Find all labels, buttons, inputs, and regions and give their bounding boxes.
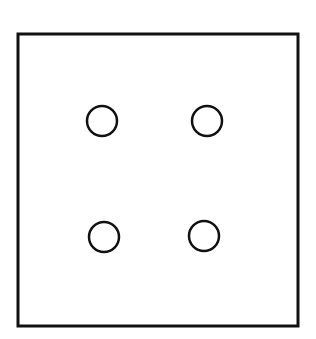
diagram-canvas bbox=[0, 0, 316, 339]
circle-top-right bbox=[192, 106, 222, 136]
outer-square bbox=[18, 34, 298, 326]
circle-bottom-left bbox=[89, 222, 119, 252]
diagram-svg bbox=[0, 0, 316, 339]
circle-bottom-right bbox=[189, 221, 219, 251]
circle-group bbox=[87, 106, 222, 252]
circle-top-left bbox=[87, 106, 117, 136]
